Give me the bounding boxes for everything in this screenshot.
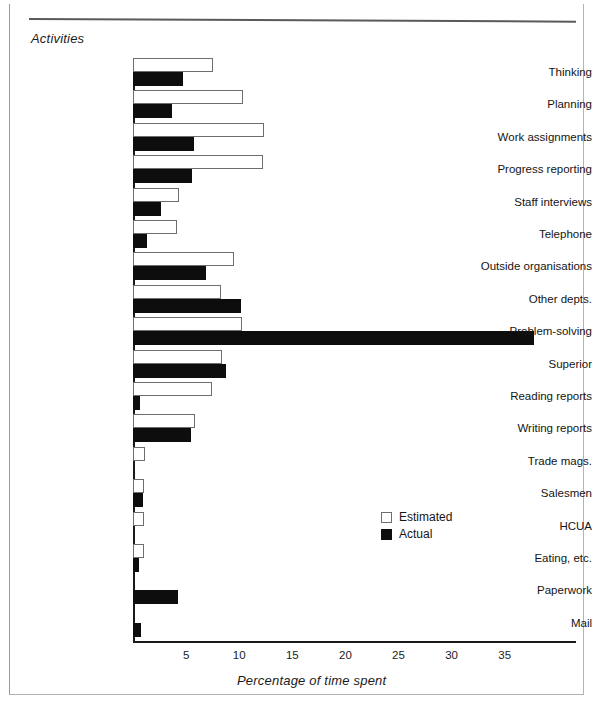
bar-actual-outside-organisations xyxy=(133,266,206,280)
category-label-reading-reports: Reading reports xyxy=(466,390,592,402)
category-label-paperwork: Paperwork xyxy=(466,584,592,596)
category-label-hcua: HCUA xyxy=(466,520,592,532)
bar-estimated-eating-etc xyxy=(133,544,144,558)
legend-label-actual: Actual xyxy=(399,527,432,541)
category-label-work-assignments: Work assignments xyxy=(466,131,592,143)
x-tick-label-5: 5 xyxy=(183,649,189,661)
bar-actual-reading-reports xyxy=(133,396,140,410)
category-label-progress-reporting: Progress reporting xyxy=(466,163,592,175)
x-axis-title: Percentage of time spent xyxy=(237,673,386,688)
bar-estimated-planning xyxy=(133,90,243,104)
x-tick-label-35: 35 xyxy=(498,649,511,661)
x-tick-label-15: 15 xyxy=(286,649,299,661)
bar-estimated-thinking xyxy=(133,58,213,72)
bar-actual-writing-reports xyxy=(133,428,191,442)
category-label-trade-mags: Trade mags. xyxy=(466,455,592,467)
legend-swatch-icon-actual xyxy=(381,529,392,540)
category-label-superior: Superior xyxy=(466,358,592,370)
bar-actual-planning xyxy=(133,104,172,118)
bar-estimated-staff-interviews xyxy=(133,188,179,202)
x-tick-label-10: 10 xyxy=(233,649,246,661)
bar-estimated-problem-solving xyxy=(133,317,242,331)
bar-estimated-outside-organisations xyxy=(133,252,234,266)
category-label-outside-organisations: Outside organisations xyxy=(466,260,592,272)
x-tick-label-25: 25 xyxy=(392,649,405,661)
x-axis-line xyxy=(133,641,576,643)
bar-actual-mail xyxy=(133,623,141,637)
bar-actual-telephone xyxy=(133,234,147,248)
category-label-writing-reports: Writing reports xyxy=(466,422,592,434)
bar-estimated-superior xyxy=(133,350,222,364)
bar-estimated-progress-reporting xyxy=(133,155,263,169)
bar-actual-work-assignments xyxy=(133,137,194,151)
bar-actual-superior xyxy=(133,364,226,378)
category-label-other-depts: Other depts. xyxy=(466,293,592,305)
legend-swatch-icon-estimated xyxy=(381,512,392,523)
bar-estimated-salesmen xyxy=(133,479,144,493)
bar-estimated-reading-reports xyxy=(133,382,212,396)
bar-actual-eating-etc xyxy=(133,558,139,572)
bar-estimated-other-depts xyxy=(133,285,221,299)
legend-label-estimated: Estimated xyxy=(399,510,452,524)
bar-estimated-work-assignments xyxy=(133,123,264,137)
chart-page: Activities ThinkingPlanningWork assignme… xyxy=(0,0,592,718)
bar-actual-other-depts xyxy=(133,299,241,313)
bar-estimated-trade-mags xyxy=(133,447,145,461)
category-label-salesmen: Salesmen xyxy=(466,487,592,499)
bar-estimated-writing-reports xyxy=(133,414,195,428)
plot-area: ThinkingPlanningWork assignmentsProgress… xyxy=(0,0,592,718)
legend-item-actual: Actual xyxy=(381,526,452,542)
bar-estimated-telephone xyxy=(133,220,177,234)
bar-actual-paperwork xyxy=(133,590,178,604)
category-label-planning: Planning xyxy=(466,98,592,110)
category-label-problem-solving: Problem-solving xyxy=(466,325,592,337)
x-tick-label-30: 30 xyxy=(445,649,458,661)
category-label-telephone: Telephone xyxy=(466,228,592,240)
bar-estimated-hcua xyxy=(133,512,144,526)
category-label-thinking: Thinking xyxy=(466,66,592,78)
legend-item-estimated: Estimated xyxy=(381,509,452,525)
category-label-mail: Mail xyxy=(466,617,592,629)
bar-actual-staff-interviews xyxy=(133,202,161,216)
category-label-eating-etc: Eating, etc. xyxy=(466,552,592,564)
category-label-staff-interviews: Staff interviews xyxy=(466,196,592,208)
legend: EstimatedActual xyxy=(381,509,452,543)
bar-actual-progress-reporting xyxy=(133,169,192,183)
x-tick-label-20: 20 xyxy=(339,649,352,661)
bar-actual-thinking xyxy=(133,72,183,86)
bar-actual-salesmen xyxy=(133,493,143,507)
